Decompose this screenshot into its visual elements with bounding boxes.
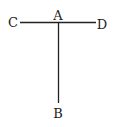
point-label-d: D <box>97 17 107 32</box>
point-label-c: C <box>8 15 18 30</box>
t-diagram: A B C D <box>0 0 118 127</box>
point-label-b: B <box>53 106 63 121</box>
point-label-a: A <box>52 8 63 23</box>
